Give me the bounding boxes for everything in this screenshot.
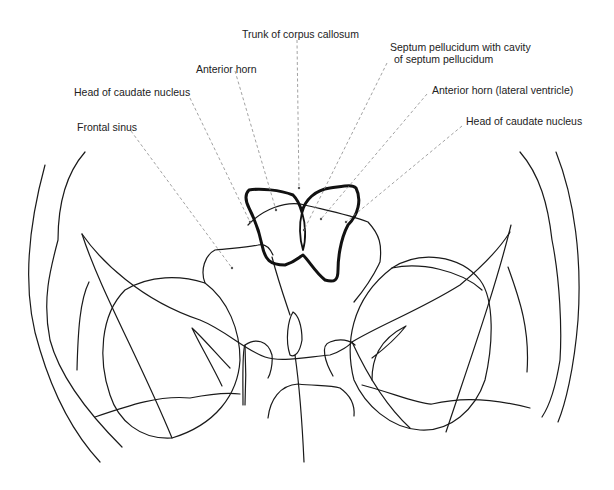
leader-septum-pellucidum [304, 63, 387, 230]
right-orbital-roof-line [352, 232, 510, 342]
left-orbit-v-mark [192, 328, 230, 386]
left-orbit [103, 278, 240, 438]
diagram-drawing [0, 0, 614, 490]
label-anterior-horn-lateral: Anterior horn (lateral ventricle) [432, 84, 573, 96]
right-orbit [350, 257, 491, 430]
label-septum-pellucidum-line1: Septum pellucidum with cavity [390, 41, 531, 53]
midline-oval [287, 312, 302, 356]
skull-inner-left-curve [47, 152, 122, 447]
skull-inner-right-curve [520, 152, 561, 417]
skull-outer-left-curve [29, 165, 100, 462]
label-head-caudate-right: Head of caudate nucleus [466, 115, 582, 127]
skull-outer-right-curve [556, 152, 579, 422]
left-short-curve [77, 282, 89, 370]
left-orbital-floor [95, 393, 240, 417]
midline-vertical-line [295, 355, 304, 462]
right-oblique-line [446, 225, 511, 432]
leader-head-caudate-right [346, 126, 462, 222]
left-inner-vertical [245, 345, 246, 405]
label-trunk-corpus-callosum: Trunk of corpus callosum [242, 28, 359, 40]
leader-trunk-corpus-callosum [297, 40, 299, 188]
right-orbit-v-mark [372, 326, 406, 380]
left-orbital-roof-line [82, 234, 352, 359]
leader-head-caudate-left [190, 98, 250, 222]
left-nasal-arc [243, 341, 272, 405]
left-oblique-line [82, 234, 172, 438]
leader-anterior-horn-lateral [321, 94, 427, 219]
anatomy-diagram: Trunk of corpus callosum Anterior horn H… [0, 0, 614, 490]
lower-nasal-arc [268, 384, 354, 418]
right-orbital-floor [362, 385, 530, 408]
label-anterior-horn: Anterior horn [196, 63, 257, 75]
central-ventricle-inner-outline [248, 204, 381, 302]
label-septum-pellucidum-line2: of septum pellucidum [394, 53, 493, 65]
lateral-ventricle-butterfly [246, 186, 359, 281]
leader-frontal-sinus [131, 131, 232, 268]
label-frontal-sinus: Frontal sinus [77, 121, 137, 133]
right-short-curve [508, 267, 528, 372]
label-head-caudate-left: Head of caudate nucleus [74, 86, 190, 98]
